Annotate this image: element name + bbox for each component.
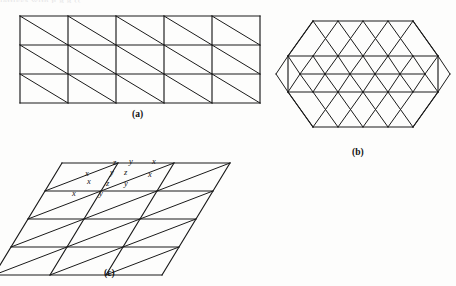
label-c-6: x	[148, 170, 152, 179]
label-c-11: y	[99, 189, 103, 198]
label-c-5: z	[124, 168, 127, 177]
figure-a-rectangular-lattice	[20, 16, 260, 103]
label-c-9: y	[124, 179, 128, 188]
label-c-4: y	[110, 168, 114, 177]
label-c-1: y	[129, 157, 133, 166]
label-c-0: z	[113, 158, 116, 167]
figure-b-hexagonal-lattice	[276, 21, 450, 127]
label-c-8: z	[106, 179, 109, 188]
caption-figure-b: (b)	[352, 147, 364, 157]
caption-figure-c: (c)	[104, 268, 115, 278]
figure-c-parallelogram-lattice	[0, 163, 230, 275]
label-c-7: x	[87, 177, 91, 186]
label-c-10: x	[72, 189, 76, 198]
lattice-svg-canvas	[0, 0, 456, 286]
label-c-2: x	[152, 157, 156, 166]
caption-figure-a: (a)	[132, 109, 143, 119]
figure-root: lattices with p g g ((	[0, 0, 456, 286]
